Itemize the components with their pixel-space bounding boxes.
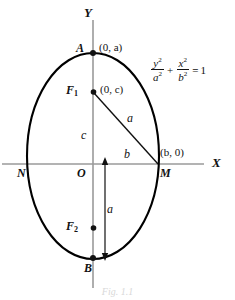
point-label-focus1: F1 bbox=[66, 84, 78, 98]
segment-label-a-hypotenuse: a bbox=[127, 112, 133, 124]
focus1-letter: F bbox=[66, 83, 74, 97]
point-label-m: M bbox=[160, 167, 171, 179]
point-label-a: A bbox=[76, 42, 84, 54]
point-dot-a bbox=[90, 50, 96, 56]
fraction-denominator-b: b2 bbox=[176, 70, 189, 83]
point-coord-a: (0, a) bbox=[99, 42, 122, 53]
denominator-exponent-a: 2 bbox=[159, 70, 163, 78]
segment-label-a-arrow: a bbox=[107, 203, 113, 215]
denominator-exponent-b: 2 bbox=[184, 70, 188, 78]
y-axis-label: Y bbox=[84, 6, 92, 19]
fraction-numerator-x: x2 bbox=[177, 56, 189, 70]
numerator-exponent-y: 2 bbox=[158, 56, 162, 64]
equation-right-hand-side: 1 bbox=[201, 64, 207, 76]
x-axis-label: X bbox=[212, 156, 221, 169]
point-label-b: B bbox=[84, 262, 92, 274]
fraction-denominator-a: a2 bbox=[151, 70, 164, 83]
point-label-n: N bbox=[17, 167, 26, 179]
focus2-subscript: 2 bbox=[74, 225, 78, 234]
figure-caption: Fig. 1.1 bbox=[0, 286, 235, 297]
segment-label-c: c bbox=[81, 129, 86, 141]
point-coord-focus1: (0, c) bbox=[100, 84, 123, 95]
fraction-y-over-a: y2 a2 bbox=[151, 56, 164, 84]
fraction-numerator-y: y2 bbox=[151, 56, 163, 70]
point-coord-m: (b, 0) bbox=[160, 147, 184, 158]
ellipse-figure: Y X A (0, a) B F1 (0, c) F2 (b, 0) M N O… bbox=[0, 0, 235, 300]
segment-label-b: b bbox=[124, 148, 130, 160]
focus1-subscript: 1 bbox=[74, 89, 78, 98]
fraction-x-over-b: x2 b2 bbox=[176, 56, 189, 84]
numerator-exponent-x: 2 bbox=[183, 56, 187, 64]
point-dot-focus1 bbox=[91, 89, 97, 95]
equation-plus-operator: + bbox=[167, 64, 173, 76]
equation-equals-sign: = bbox=[192, 64, 198, 76]
point-label-focus2: F2 bbox=[66, 220, 78, 234]
ellipse-equation: y2 a2 + x2 b2 = 1 bbox=[150, 56, 206, 84]
point-label-o: O bbox=[77, 167, 86, 179]
focus2-letter: F bbox=[66, 219, 74, 233]
point-dot-focus2 bbox=[91, 225, 97, 231]
